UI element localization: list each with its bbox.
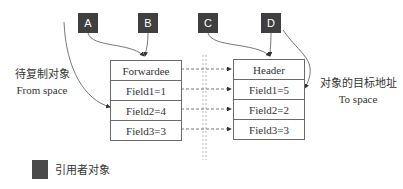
field-3: Field3=3 bbox=[111, 120, 181, 140]
field-forwardee: Forwardee bbox=[111, 61, 181, 80]
field-1: Field1=1 bbox=[111, 80, 181, 100]
field-2: Field2=2 bbox=[234, 99, 304, 119]
referrer-c: C bbox=[198, 13, 218, 33]
field-header: Header bbox=[234, 60, 304, 79]
referrer-b: B bbox=[138, 13, 158, 33]
referrer-label: D bbox=[267, 17, 275, 29]
from-space-object: Forwardee Field1=1 Field2=4 Field3=3 bbox=[110, 60, 182, 141]
referrer-label: C bbox=[204, 17, 212, 29]
field-1: Field1=5 bbox=[234, 79, 304, 99]
from-space-label-en: From space bbox=[2, 80, 82, 100]
referrer-a: A bbox=[78, 13, 98, 33]
field-2: Field2=4 bbox=[111, 100, 181, 120]
to-space-label-en: To space bbox=[313, 89, 403, 109]
referrer-d: D bbox=[261, 13, 281, 33]
field-3: Field3=3 bbox=[234, 119, 304, 139]
referrer-label: A bbox=[84, 17, 91, 29]
to-space-object: Header Field1=5 Field2=2 Field3=3 bbox=[233, 59, 305, 140]
legend-swatch bbox=[32, 160, 48, 179]
referrer-label: B bbox=[144, 17, 151, 29]
legend-label: 引用者对象 bbox=[55, 160, 110, 180]
